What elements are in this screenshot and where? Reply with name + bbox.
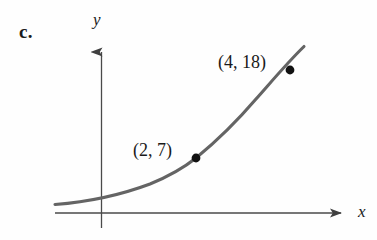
point-label-4-18: (4, 18)	[218, 53, 266, 71]
y-axis-label: y	[93, 11, 101, 28]
data-point-4-18	[286, 66, 295, 75]
x-axis-label: x	[358, 203, 366, 220]
point-label-2-7: (2, 7)	[133, 141, 172, 159]
data-point-2-7	[192, 154, 201, 163]
part-label: c.	[19, 22, 33, 41]
figure-container: c. y x (2, 7) (4, 18)	[0, 0, 377, 240]
exponential-curve	[55, 47, 304, 205]
graph-canvas	[0, 0, 377, 240]
